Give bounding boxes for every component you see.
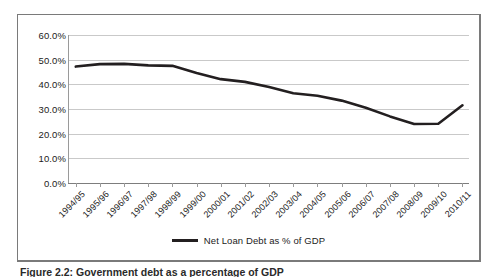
- y-tick-label: 50.0%: [39, 54, 66, 65]
- x-tick-label: 2010/11: [443, 189, 473, 219]
- x-tick-mark: [462, 183, 463, 187]
- y-axis-labels: 0.0%10.0%20.0%30.0%40.0%50.0%60.0%: [18, 35, 66, 183]
- y-tick-label: 10.0%: [39, 153, 66, 164]
- x-tick-mark: [172, 183, 173, 187]
- x-tick-mark: [76, 183, 77, 187]
- chart-legend: Net Loan Debt as % of GDP: [18, 235, 479, 246]
- x-tick-mark: [317, 183, 318, 187]
- series-polyline: [76, 64, 463, 124]
- y-tick-label: 40.0%: [39, 79, 66, 90]
- legend-line-swatch: [172, 239, 198, 242]
- x-tick-mark: [100, 183, 101, 187]
- x-tick-mark: [342, 183, 343, 187]
- figure-frame: 0.0%10.0%20.0%30.0%40.0%50.0%60.0% 1994/…: [17, 14, 481, 262]
- x-tick-mark: [414, 183, 415, 187]
- legend-label: Net Loan Debt as % of GDP: [204, 235, 325, 246]
- x-axis-labels: 1994/951995/961996/971997/981998/991999/…: [69, 189, 469, 237]
- x-tick-mark: [269, 183, 270, 187]
- x-tick-mark: [245, 183, 246, 187]
- x-tick-mark: [148, 183, 149, 187]
- data-series-line: [69, 35, 469, 183]
- x-tick-mark: [197, 183, 198, 187]
- x-tick-mark: [124, 183, 125, 187]
- x-tick-mark: [293, 183, 294, 187]
- figure-caption: Figure 2.2: Government debt as a percent…: [20, 266, 284, 277]
- x-tick-mark: [438, 183, 439, 187]
- y-tick-label: 20.0%: [39, 128, 66, 139]
- y-tick-label: 30.0%: [39, 104, 66, 115]
- x-tick-mark: [366, 183, 367, 187]
- chart-plot-container: 0.0%10.0%20.0%30.0%40.0%50.0%60.0% 1994/…: [18, 15, 479, 260]
- x-tick-mark: [390, 183, 391, 187]
- x-tick-mark: [221, 183, 222, 187]
- y-tick-label: 0.0%: [44, 178, 66, 189]
- y-tick-label: 60.0%: [39, 30, 66, 41]
